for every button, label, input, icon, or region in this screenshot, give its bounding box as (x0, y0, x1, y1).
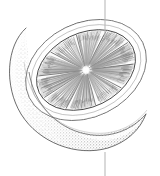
illustration-canvas: Halved citrus fruit Orange cut in half s… (0, 0, 160, 176)
citrus-half-illustration (0, 0, 160, 176)
